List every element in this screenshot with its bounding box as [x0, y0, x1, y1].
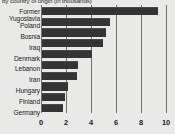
- bar: [42, 61, 78, 69]
- category-label: Denmark: [0, 55, 40, 62]
- category-label-line: Germany: [0, 109, 40, 116]
- x-tick-label: 10: [159, 118, 173, 127]
- category-label: Germany: [0, 109, 40, 116]
- bar: [42, 7, 158, 15]
- category-label: Finland: [0, 98, 40, 105]
- bar: [42, 39, 103, 47]
- category-label: FormerYugoslavia: [0, 8, 40, 22]
- category-label-line: Denmark: [0, 55, 40, 62]
- x-tick-label: 6: [109, 118, 123, 127]
- category-axis-labels: FormerYugoslaviaPolandBosniaIraqDenmarkL…: [0, 5, 40, 113]
- x-tick-label: 8: [134, 118, 148, 127]
- category-label: Iraq: [0, 44, 40, 51]
- gridline: [116, 5, 117, 113]
- category-label-line: Finland: [0, 98, 40, 105]
- gridline: [166, 5, 167, 113]
- category-label: Hungary: [0, 87, 40, 94]
- bar: [42, 50, 92, 58]
- x-tick-label: 4: [84, 118, 98, 127]
- category-label-line: Former: [0, 8, 40, 15]
- category-label-line: Iraq: [0, 44, 40, 51]
- category-label: Lebanon: [0, 65, 40, 72]
- category-label-line: Bosnia: [0, 33, 40, 40]
- x-tick-label: 2: [59, 118, 73, 127]
- category-label: Iran: [0, 76, 40, 83]
- category-label-line: Iran: [0, 76, 40, 83]
- bar: [42, 72, 77, 80]
- category-label-line: Lebanon: [0, 65, 40, 72]
- bar: [42, 18, 110, 26]
- plot-area: [41, 5, 166, 113]
- bar: [42, 82, 68, 90]
- bar-chart: by country of origin (in thousands) Form…: [0, 0, 175, 134]
- category-label-line: Hungary: [0, 87, 40, 94]
- bar: [42, 28, 106, 36]
- bar: [42, 93, 65, 101]
- category-label: Poland: [0, 22, 40, 29]
- gridline: [141, 5, 142, 113]
- category-label: Bosnia: [0, 33, 40, 40]
- x-tick-label: 0: [34, 118, 48, 127]
- category-label-line: Poland: [0, 22, 40, 29]
- chart-title: by country of origin (in thousands): [2, 0, 175, 4]
- category-label-line: Yugoslavia: [0, 15, 40, 22]
- bar: [42, 104, 63, 112]
